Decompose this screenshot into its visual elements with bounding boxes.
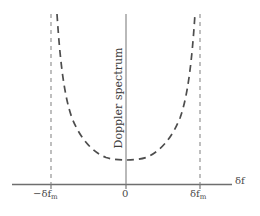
doppler-spectrum-figure: Doppler spectrum −δfm 0 δfm δf <box>0 0 260 216</box>
x-tick-label-neg-dfm-subscript: m <box>51 193 58 201</box>
x-tick-label-pos-dfm-symbol: δf <box>190 188 200 199</box>
x-tick-label-zero: 0 <box>122 189 128 199</box>
doppler-spectrum-label: Doppler spectrum <box>113 48 124 149</box>
x-tick-label-pos-dfm: δfm <box>190 189 206 199</box>
x-tick-label-neg-dfm-symbol: −δf <box>33 188 51 199</box>
x-tick-label-pos-dfm-subscript: m <box>200 193 207 201</box>
x-tick-label-neg-dfm: −δfm <box>33 189 58 199</box>
x-axis-label: δf <box>235 176 245 186</box>
plot-canvas <box>0 0 260 216</box>
